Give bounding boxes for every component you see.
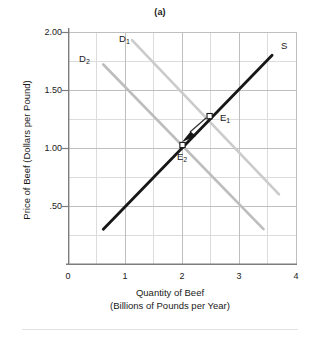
supply-curve-s bbox=[103, 55, 272, 229]
figure-chart-a: (a) Price of Beef (Dollars per Pound) Qu… bbox=[0, 0, 320, 337]
bottom-divider bbox=[22, 329, 298, 330]
axis-ticks bbox=[62, 33, 69, 207]
equilibrium-e2-label: E2 bbox=[177, 152, 187, 163]
equilibrium-e1-label: E1 bbox=[220, 113, 230, 124]
demand1-curve-label: D1 bbox=[119, 34, 130, 45]
plot-area bbox=[0, 0, 320, 337]
demand2-curve-label: D2 bbox=[79, 54, 90, 65]
shift-arrow-icon bbox=[182, 118, 206, 142]
supply-curve-label: S bbox=[281, 41, 287, 51]
marker-e2 bbox=[180, 142, 185, 147]
marker-e1 bbox=[207, 114, 212, 119]
